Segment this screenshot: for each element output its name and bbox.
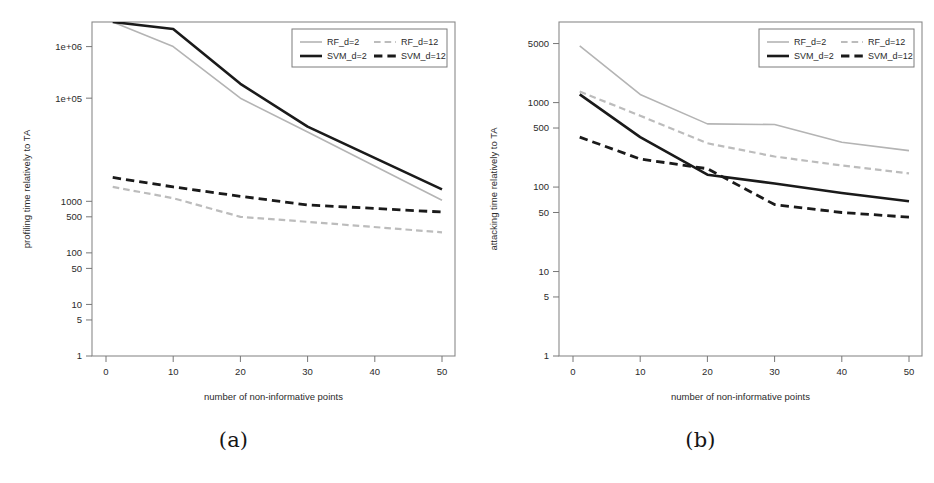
y-tick-label: 5 <box>77 314 82 325</box>
panel-b-caption: (b) <box>467 428 934 452</box>
legend-label: SVM_d=12 <box>401 51 446 61</box>
legend-label: SVM_d=2 <box>794 51 834 61</box>
legend-label: RF_d=12 <box>401 37 438 47</box>
y-tick-label: 1e+05 <box>55 93 82 104</box>
panel-a-caption: (a) <box>0 428 467 452</box>
plot-frame <box>92 22 455 356</box>
x-tick-label: 10 <box>635 366 646 377</box>
series-svm-d-2 <box>580 94 909 201</box>
y-tick-label: 1 <box>77 350 82 361</box>
x-tick-label: 50 <box>904 366 915 377</box>
plot-area-panel-b: 1510501005001000500001020304050number of… <box>488 22 922 402</box>
x-tick-label: 20 <box>702 366 713 377</box>
legend-label: SVM_d=2 <box>327 51 367 61</box>
x-tick-label: 40 <box>837 366 848 377</box>
y-tick-label: 1 <box>544 350 549 361</box>
x-tick-label: 10 <box>168 366 179 377</box>
y-tick-label: 1e+06 <box>55 41 82 52</box>
x-tick-label: 40 <box>370 366 381 377</box>
x-axis-title: number of non-informative points <box>204 391 343 402</box>
x-tick-label: 0 <box>570 366 575 377</box>
y-tick-label: 1000 <box>61 196 82 207</box>
legend-label: RF_d=12 <box>868 37 905 47</box>
legend-label: SVM_d=12 <box>868 51 913 61</box>
panel-a: 15105010050010001e+051e+0601020304050num… <box>0 0 467 483</box>
y-tick-label: 500 <box>66 211 82 222</box>
y-tick-label: 10 <box>538 266 549 277</box>
x-tick-label: 20 <box>235 366 246 377</box>
series-rf-d-12 <box>580 92 909 174</box>
series-svm-d-12 <box>113 177 442 212</box>
series-svm-d-12 <box>580 137 909 217</box>
x-tick-label: 0 <box>103 366 108 377</box>
y-axis-title: attacking time relatively to TA <box>488 127 499 251</box>
y-axis-title: profiling time relatively to TA <box>21 129 32 248</box>
y-tick-label: 10 <box>71 299 82 310</box>
y-tick-label: 5000 <box>528 38 549 49</box>
chart-a: 15105010050010001e+051e+0601020304050num… <box>0 0 467 440</box>
chart-b: 1510501005001000500001020304050number of… <box>467 0 934 440</box>
y-tick-label: 100 <box>66 247 82 258</box>
x-tick-label: 50 <box>437 366 448 377</box>
x-tick-label: 30 <box>302 366 313 377</box>
x-axis-title: number of non-informative points <box>671 391 810 402</box>
legend-label: RF_d=2 <box>327 37 359 47</box>
y-tick-label: 50 <box>538 207 549 218</box>
y-tick-label: 100 <box>533 181 549 192</box>
legend-label: RF_d=2 <box>794 37 826 47</box>
x-tick-label: 30 <box>769 366 780 377</box>
y-tick-label: 50 <box>71 263 82 274</box>
panel-b: 1510501005001000500001020304050number of… <box>467 0 934 483</box>
plot-area-panel-a: 15105010050010001e+051e+0601020304050num… <box>21 22 455 402</box>
series-group <box>580 46 909 217</box>
y-tick-label: 5 <box>544 291 549 302</box>
figure-container: 15105010050010001e+051e+0601020304050num… <box>0 0 934 483</box>
y-tick-label: 500 <box>533 122 549 133</box>
y-tick-label: 1000 <box>528 97 549 108</box>
